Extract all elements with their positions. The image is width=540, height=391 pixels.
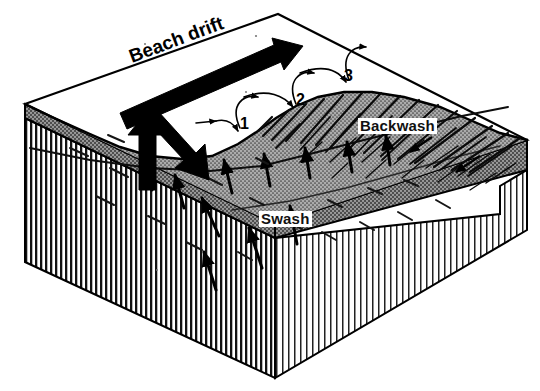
step-number-1: 1 — [240, 116, 249, 132]
swash-label: Swash — [259, 211, 312, 227]
beach-drift-diagram: Beach drift Backwash Swash 1 2 3 — [0, 0, 540, 391]
diagram-canvas — [0, 0, 540, 391]
step-number-3: 3 — [344, 68, 353, 84]
backwash-label: Backwash — [358, 118, 437, 134]
step-number-2: 2 — [296, 92, 305, 108]
